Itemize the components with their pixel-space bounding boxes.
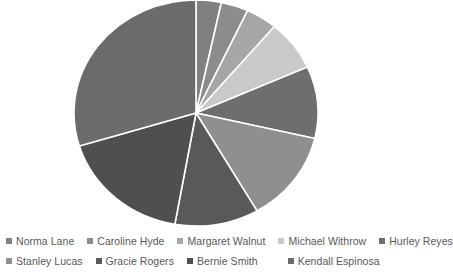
legend-item-label: Kendall Espinosa: [298, 255, 380, 267]
legend-item-norma-lane[interactable]: Norma Lane: [6, 235, 74, 247]
pie-svg: [0, 0, 395, 228]
legend-item-gracie-rogers[interactable]: Gracie Rogers: [96, 255, 174, 267]
legend-item-label: Hurley Reyes: [389, 235, 453, 247]
legend-item-label: Michael Withrow: [288, 235, 366, 247]
legend-item-label: Bernie Smith: [197, 255, 258, 267]
legend-square-icon: [187, 258, 193, 264]
legend-square-icon: [96, 258, 102, 264]
legend-item-margaret-walnut[interactable]: Margaret Walnut: [177, 235, 265, 247]
legend-row-1: Norma Lane Caroline Hyde Margaret Walnut…: [6, 231, 389, 251]
legend-item-caroline-hyde[interactable]: Caroline Hyde: [87, 235, 164, 247]
legend-item-label: Gracie Rogers: [106, 255, 174, 267]
legend-square-icon: [177, 238, 183, 244]
legend-item-stanley-lucas[interactable]: Stanley Lucas: [6, 255, 83, 267]
pie-plot-area: [0, 0, 395, 228]
legend-item-michael-withrow[interactable]: Michael Withrow: [278, 235, 366, 247]
legend-item-kendall-espinosa[interactable]: Kendall Espinosa: [288, 255, 380, 267]
legend-item-label: Caroline Hyde: [97, 235, 164, 247]
legend-row-2: Stanley Lucas Gracie Rogers Bernie Smith…: [6, 251, 389, 271]
legend-item-label: Stanley Lucas: [16, 255, 83, 267]
legend-square-icon: [288, 258, 294, 264]
legend-square-icon: [6, 258, 12, 264]
legend-square-icon: [379, 238, 385, 244]
legend-item-label: Norma Lane: [16, 235, 74, 247]
legend-item-label: Margaret Walnut: [187, 235, 265, 247]
legend-square-icon: [278, 238, 284, 244]
legend-item-bernie-smith[interactable]: Bernie Smith: [187, 255, 258, 267]
legend-item-hurley-reyes[interactable]: Hurley Reyes: [379, 235, 453, 247]
legend-square-icon: [6, 238, 12, 244]
pie-slice-group: [74, 0, 318, 226]
chart-legend: Norma Lane Caroline Hyde Margaret Walnut…: [0, 231, 395, 279]
legend-square-icon: [87, 238, 93, 244]
